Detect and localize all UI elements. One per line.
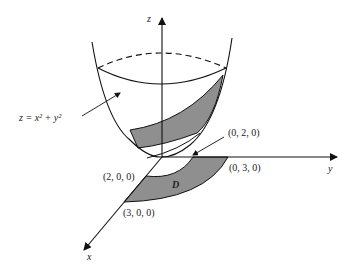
surface-equation-label: z = x² + y² bbox=[19, 113, 61, 123]
z-axis-label: z bbox=[147, 14, 151, 24]
x-axis-label: x bbox=[87, 252, 91, 262]
point-label-200: (2, 0, 0) bbox=[103, 172, 135, 182]
diagram-canvas: z y x z = x² + y² D (0, 2, 0) (0, 3, 0) … bbox=[0, 0, 352, 277]
point-label-030: (0, 3, 0) bbox=[229, 163, 261, 173]
surface-label-arrow bbox=[82, 93, 120, 116]
region-d-label: D bbox=[172, 180, 179, 190]
point-label-300: (3, 0, 0) bbox=[123, 208, 155, 218]
point-label-020: (0, 2, 0) bbox=[228, 128, 260, 138]
paraboloid-diagram bbox=[0, 0, 352, 277]
point-020-arrow bbox=[193, 137, 224, 155]
y-axis-label: y bbox=[328, 164, 332, 174]
surface-band-shading bbox=[130, 75, 223, 148]
